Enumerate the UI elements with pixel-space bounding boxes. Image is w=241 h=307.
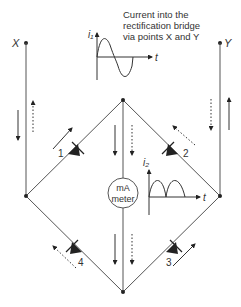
t-label-input: t xyxy=(155,52,159,63)
node-left xyxy=(24,194,28,198)
diode-1: 1 xyxy=(58,142,84,159)
node-right xyxy=(218,194,222,198)
i2-label: i₂ xyxy=(143,157,149,168)
arrow-diode1 xyxy=(53,128,72,149)
diode-3: 3 xyxy=(166,240,182,268)
node-bottom xyxy=(121,290,125,294)
bridge-rectifier-diagram: X Y mA meter 1 2 xyxy=(0,0,241,307)
diode-4-label: 4 xyxy=(78,257,84,268)
diode-2: 2 xyxy=(162,142,189,159)
input-waveform-graph: i₁ t xyxy=(88,29,159,80)
t-label-output: t xyxy=(203,192,207,203)
arrow-diode2-dotted xyxy=(173,126,195,145)
output-waveform-graph: i₂ t xyxy=(143,157,207,215)
terminal-x-label: X xyxy=(11,37,20,49)
ma-meter: mA meter xyxy=(108,178,138,208)
diode-1-label: 1 xyxy=(58,148,64,159)
terminal-y-label: Y xyxy=(224,37,232,49)
meter-label-2: meter xyxy=(111,194,134,204)
diode-2-label: 2 xyxy=(183,148,189,159)
diode-3-label: 3 xyxy=(166,257,172,268)
node-top xyxy=(121,98,125,102)
i1-label: i₁ xyxy=(88,29,93,40)
meter-label-1: mA xyxy=(116,183,130,193)
terminal-x: X xyxy=(11,37,28,49)
